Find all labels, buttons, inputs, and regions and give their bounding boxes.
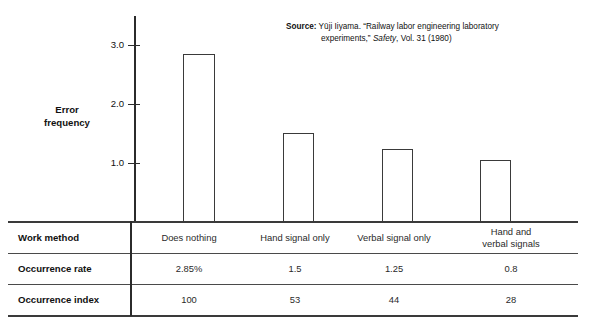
cell-work-method-4-line1: Hand and: [455, 226, 567, 238]
cell-occurrence-index-3: 44: [338, 294, 450, 306]
row-label-work-method: Work method: [18, 232, 126, 243]
cell-work-method-4-line2: verbal signals: [455, 238, 567, 250]
table-rule-2: [8, 284, 578, 285]
cell-work-method-1: Does nothing: [133, 232, 245, 244]
table-rule-bottom: [8, 315, 578, 317]
y-axis-line: [134, 16, 136, 223]
bar-hand-and-verbal-signals: [480, 160, 511, 223]
y-tick-label-1: 1.0: [96, 157, 124, 168]
row-label-occurrence-index: Occurrence index: [18, 294, 126, 305]
data-table: Work method Occurrence rate Occurrence i…: [8, 221, 578, 321]
row-label-occurrence-rate: Occurrence rate: [18, 263, 126, 274]
y-tick-2: [128, 104, 140, 105]
table-rule-top: [8, 221, 578, 223]
table-rule-1: [8, 253, 578, 254]
y-tick-1: [128, 163, 140, 164]
plot-area: 3.0 2.0 1.0 Error frequency: [0, 0, 594, 224]
cell-work-method-4: Hand and verbal signals: [455, 226, 567, 249]
y-axis-title-line2: frequency: [24, 117, 110, 130]
y-axis-title-line1: Error: [24, 104, 110, 117]
bar-does-nothing: [183, 54, 215, 223]
cell-occurrence-rate-2: 1.5: [239, 263, 351, 275]
y-tick-label-3: 3.0: [96, 39, 124, 50]
cell-occurrence-rate-3: 1.25: [338, 263, 450, 275]
table-vertical-divider: [130, 221, 132, 316]
cell-occurrence-index-4: 28: [455, 294, 567, 306]
figure-root: Source: Yūji Iiyama. “Railway labor engi…: [0, 0, 594, 330]
cell-work-method-3: Verbal signal only: [338, 232, 450, 244]
cell-work-method-2: Hand signal only: [239, 232, 351, 244]
y-tick-3: [128, 45, 140, 46]
cell-occurrence-rate-1: 2.85%: [133, 263, 245, 275]
y-axis-title: Error frequency: [24, 104, 110, 129]
cell-occurrence-index-2: 53: [239, 294, 351, 306]
bar-verbal-signal-only: [382, 149, 413, 223]
bar-hand-signal-only: [283, 133, 314, 223]
cell-occurrence-index-1: 100: [133, 294, 245, 306]
cell-occurrence-rate-4: 0.8: [455, 263, 567, 275]
